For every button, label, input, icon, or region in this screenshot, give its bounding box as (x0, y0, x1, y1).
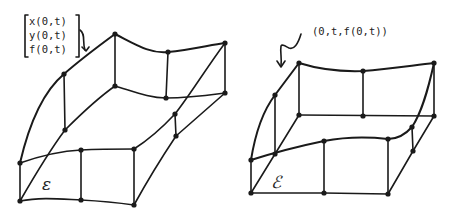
annotation-y: y(0,t) (29, 29, 67, 41)
left-annotation-bracket: x(0,t) y(0,t) f(0,t) (25, 15, 89, 57)
right-annotation: (0,t,f(0,t)) (312, 25, 388, 37)
left-back-top-curve (115, 34, 225, 52)
annotation-x: x(0,t) (29, 15, 67, 27)
right-surface-figure: (0,t,f(0,t)) (248, 25, 436, 197)
annotation-f: f(0,t) (29, 43, 67, 55)
left-region-label: ε (42, 174, 51, 194)
right-region-label: ℰ (271, 172, 283, 192)
left-surface-figure: x(0,t) y(0,t) f(0,t) (17, 15, 227, 208)
diagram-canvas: x(0,t) y(0,t) f(0,t) (0, 0, 455, 214)
